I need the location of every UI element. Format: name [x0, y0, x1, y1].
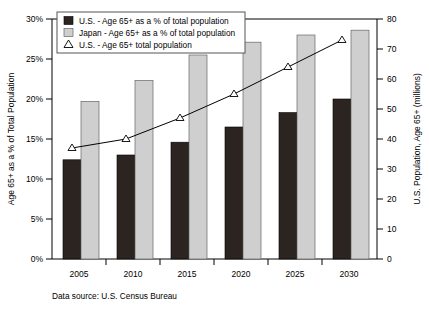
legend-swatch-dark-square [64, 17, 73, 25]
x-tick-label-2010: 2010 [124, 269, 143, 279]
y-tick-label-6: 30% [26, 14, 43, 24]
bar-us-2020 [225, 127, 243, 259]
legend-label-us-percent: U.S. - Age 65+ as a % of total populatio… [79, 16, 229, 26]
x-tick-label-2025: 2025 [286, 269, 305, 279]
marker-triangle-2020 [230, 90, 238, 97]
y2-tick-label-2: 20 [387, 194, 397, 204]
y2-tick-label-0: 0 [387, 254, 392, 264]
y-tick-label-4: 20% [26, 94, 43, 104]
bar-japan-2005 [81, 101, 99, 259]
y-tick-label-0: 0% [31, 254, 44, 264]
chart-svg: 0% 5% 10% 15% 20% 25% 30% 0 10 20 30 40 … [0, 0, 429, 309]
y-tick-label-5: 25% [26, 54, 43, 64]
y-tick-label-1: 5% [31, 214, 44, 224]
marker-triangle-2025 [284, 63, 292, 70]
y-axis-right-title: U.S. Population, Age 65+ (millions) [412, 73, 422, 205]
y2-tick-label-4: 40 [387, 134, 397, 144]
y-tick-label-2: 10% [26, 174, 43, 184]
bar-japan-2010 [135, 81, 153, 259]
x-tick-label-2005: 2005 [70, 269, 89, 279]
bar-japan-2030 [351, 30, 369, 259]
bar-japan-2015 [189, 55, 207, 259]
y-axis-left-title: Age 65+ as a % of Total Population [6, 73, 16, 206]
x-tick-label-2020: 2020 [232, 269, 251, 279]
y2-tick-label-5: 50 [387, 104, 397, 114]
chart-legend: U.S. - Age 65+ as a % of total populatio… [57, 12, 245, 53]
bar-us-2030 [333, 99, 351, 259]
legend-label-us-population: U.S. - Age 65+ total population [79, 40, 192, 50]
marker-triangle-2030 [338, 36, 346, 43]
x-axis-ticks: 2005 2010 2015 2020 2025 2030 [70, 259, 359, 279]
y2-tick-label-6: 60 [387, 74, 397, 84]
y-axis-right-ticks: 0 10 20 30 40 50 60 70 80 [377, 14, 397, 264]
bar-us-2005 [63, 160, 81, 259]
legend-label-japan-percent: Japan - Age 65+ as a % of total populati… [79, 28, 236, 38]
x-tick-label-2030: 2030 [340, 269, 359, 279]
y2-tick-label-8: 80 [387, 14, 397, 24]
source-note: Data source: U.S. Census Bureau [52, 291, 177, 301]
bar-japan-2025 [297, 35, 315, 259]
x-tick-label-2015: 2015 [178, 269, 197, 279]
chart-container: 0% 5% 10% 15% 20% 25% 30% 0 10 20 30 40 … [0, 0, 429, 309]
legend-swatch-light-square [64, 29, 73, 37]
bar-japan-2020 [243, 42, 261, 259]
bar-us-2025 [279, 113, 297, 259]
y2-tick-label-3: 30 [387, 164, 397, 174]
plot-frame [52, 19, 377, 259]
bar-us-2015 [171, 142, 189, 259]
y-tick-label-3: 15% [26, 134, 43, 144]
y-axis-left-ticks: 0% 5% 10% 15% 20% 25% 30% [26, 14, 52, 264]
y2-tick-label-1: 10 [387, 224, 397, 234]
bar-us-2010 [117, 155, 135, 259]
y2-tick-label-7: 70 [387, 44, 397, 54]
